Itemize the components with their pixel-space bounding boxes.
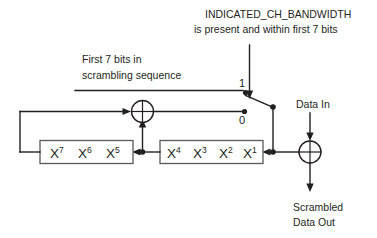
- feedback-tap-wire: [139, 119, 146, 152]
- left-tap-2-base: X: [106, 146, 115, 161]
- inter-register-wire: [132, 148, 160, 155]
- source-label-line2: scrambling sequence: [82, 69, 181, 81]
- right-tap-1-exp: 3: [202, 145, 207, 155]
- right-tap-2-exp: 2: [228, 145, 233, 155]
- selector-label-zero: 0: [239, 114, 245, 126]
- right-tap-0-base: X: [167, 146, 176, 161]
- right-tap-3-base: X: [243, 146, 252, 161]
- selector-contact-one-node: [243, 90, 248, 95]
- left-tap-2-exp: 5: [115, 145, 120, 155]
- data-in-wire: [306, 113, 313, 141]
- right-tap-3-exp: 1: [252, 145, 257, 155]
- source-label-line1: First 7 bits in: [82, 53, 142, 65]
- left-tap-0-exp: 7: [59, 145, 64, 155]
- right-tap-2-base: X: [219, 146, 228, 161]
- control-label-line2: is present and within first 7 bits: [194, 23, 338, 35]
- feedback-xor-gate: [132, 101, 154, 123]
- control-label-line1: INDICATED_CH_BANDWIDTH: [205, 8, 351, 20]
- diagram-canvas: INDICATED_CH_BANDWIDTH is present and wi…: [0, 0, 377, 238]
- feedback-bus-wire: [262, 148, 299, 155]
- scrambler-diagram: INDICATED_CH_BANDWIDTH is present and wi…: [0, 0, 377, 238]
- data-in-label: Data In: [296, 98, 330, 110]
- selector-label-one: 1: [239, 77, 245, 89]
- output-xor-gate: [299, 141, 321, 163]
- right-tap-0-exp: 4: [176, 145, 181, 155]
- scrambled-output-wire: [306, 163, 313, 192]
- left-tap-1-base: X: [78, 146, 87, 161]
- left-tap-0-base: X: [50, 146, 59, 161]
- right-tap-1-base: X: [193, 146, 202, 161]
- left-tap-1-exp: 6: [87, 145, 92, 155]
- bus-junction-node-right: [270, 149, 276, 155]
- output-label-line1: Scrambled: [293, 201, 343, 213]
- selector-switch-arm[interactable]: [246, 96, 273, 108]
- output-label-line2: Data Out: [293, 216, 335, 228]
